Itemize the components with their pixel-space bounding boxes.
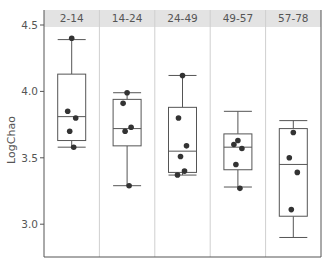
boxplot-chart: 2-1414-2424-4949-5757-78 3.03.54.04.5 Lo… [0, 0, 333, 269]
data-point [237, 186, 243, 192]
box-series [58, 35, 308, 237]
data-point [65, 109, 71, 115]
iqr-box [113, 99, 141, 145]
data-point [128, 124, 134, 130]
box-57-78 [279, 121, 307, 238]
data-point [176, 115, 182, 121]
data-point [71, 144, 77, 150]
panel-header-label: 49-57 [223, 12, 254, 24]
data-point [235, 138, 241, 144]
data-point [180, 73, 186, 79]
data-point [124, 90, 130, 96]
data-point [182, 168, 188, 174]
data-point [231, 142, 237, 148]
panel-header-label: 57-78 [278, 12, 309, 24]
box-24-49 [169, 73, 197, 178]
iqr-box [169, 107, 197, 172]
y-tick-label: 4.5 [21, 19, 38, 31]
data-point [126, 183, 132, 189]
data-point [239, 146, 245, 152]
panel-headers: 2-1414-2424-4949-5757-78 [44, 10, 321, 27]
y-tick-label: 3.5 [21, 152, 38, 164]
box-49-57 [224, 111, 252, 191]
box-14-24 [113, 90, 141, 189]
data-point [184, 143, 190, 149]
data-point [291, 130, 297, 136]
data-point [178, 154, 184, 160]
y-axis-label: LogChao [5, 116, 18, 164]
data-point [122, 128, 128, 134]
data-point [295, 170, 301, 176]
data-point [287, 155, 293, 161]
data-point [73, 115, 79, 121]
y-tick-label: 4.0 [21, 85, 38, 97]
data-point [289, 207, 295, 213]
panel-header-label: 14-24 [112, 12, 143, 24]
panel-header-label: 24-49 [167, 12, 198, 24]
box-2-14 [58, 35, 86, 149]
y-tick-label: 3.0 [21, 218, 38, 230]
data-point [67, 128, 73, 134]
data-point [69, 35, 75, 41]
data-point [233, 162, 239, 168]
data-point [175, 172, 181, 178]
chart-canvas: 2-1414-2424-4949-5757-78 3.03.54.04.5 Lo… [0, 0, 333, 269]
panel-header-label: 2-14 [60, 12, 84, 24]
iqr-box [279, 129, 307, 217]
data-point [120, 101, 126, 107]
